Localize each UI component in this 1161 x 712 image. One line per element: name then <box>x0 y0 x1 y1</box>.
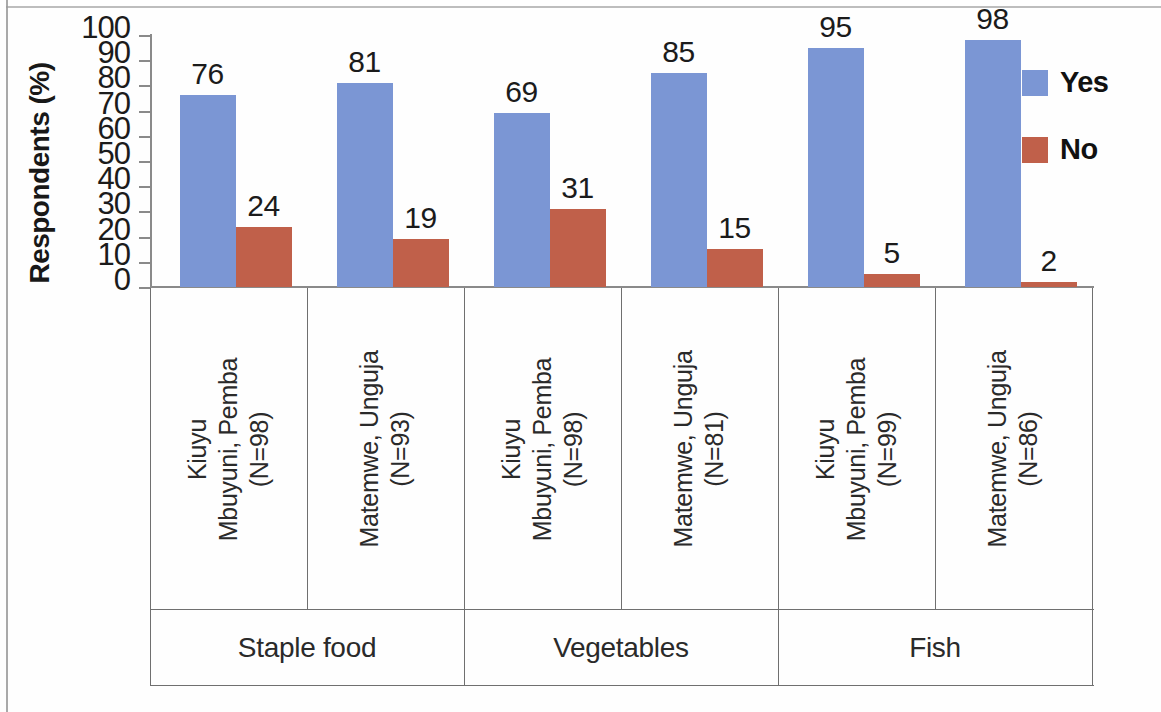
group-cell-divider <box>1092 610 1093 686</box>
bar-value-label-yes: 69 <box>482 75 562 109</box>
category-label-cell: Matemwe, Unguja(N=81) <box>621 288 778 610</box>
bar-yes[interactable] <box>337 83 393 287</box>
bar-no[interactable] <box>1021 282 1077 287</box>
group-label-cell: Fish <box>778 610 1092 686</box>
bar-pair: 8515 <box>622 35 779 287</box>
bar-value-label-no: 5 <box>852 236 932 270</box>
bar-no[interactable] <box>707 249 763 287</box>
legend-swatch-no-icon <box>1022 137 1048 163</box>
scan-edge-left <box>6 0 8 712</box>
category-label-row: KiuyuMbuyuni, Pemba(N=98)Matemwe, Unguja… <box>150 288 1094 610</box>
bar-value-label-no: 19 <box>381 201 461 235</box>
bar-value-label-no: 2 <box>1009 244 1089 278</box>
category-label-cell: Matemwe, Unguja(N=86) <box>935 288 1092 610</box>
bar-pair: 7624 <box>151 35 308 287</box>
bar-value-label-no: 24 <box>224 189 304 223</box>
y-tick-mark <box>139 136 151 138</box>
bar-value-label-no: 15 <box>695 211 775 245</box>
group-cell-divider <box>150 610 151 686</box>
y-tick-mark <box>139 60 151 62</box>
category-label-cell: Matemwe, Unguja(N=93) <box>307 288 464 610</box>
legend-item-yes[interactable]: Yes <box>1022 66 1152 99</box>
group-cell-divider <box>778 610 779 686</box>
y-tick-mark <box>139 262 151 264</box>
bar-no[interactable] <box>550 209 606 287</box>
category-label: Matemwe, Unguja(N=93) <box>355 351 417 548</box>
category-cell-divider <box>1092 288 1093 610</box>
category-label: Matemwe, Unguja(N=86) <box>983 351 1045 548</box>
bar-no[interactable] <box>393 239 449 287</box>
group-cell-divider <box>464 610 465 686</box>
bar-value-label-yes: 98 <box>953 2 1033 36</box>
group-label-cell: Staple food <box>150 610 464 686</box>
y-tick-mark <box>139 161 151 163</box>
bar-no[interactable] <box>236 227 292 287</box>
y-axis-tick-labels: 1009080706050403020100 <box>46 18 130 303</box>
category-cell-divider <box>150 288 151 610</box>
y-tick-label: 0 <box>114 264 130 295</box>
y-tick-mark <box>139 186 151 188</box>
bar-pair: 955 <box>779 35 936 287</box>
category-cell-divider <box>464 288 465 610</box>
legend-item-no[interactable]: No <box>1022 133 1152 166</box>
bar-pair: 8119 <box>308 35 465 287</box>
y-tick-mark <box>139 237 151 239</box>
y-tick-mark <box>139 85 151 87</box>
chart-legend: Yes No <box>1022 66 1152 200</box>
plot-area: 7624811969318515955982 <box>151 35 1093 287</box>
category-cell-divider <box>778 288 779 610</box>
y-tick-mark <box>139 35 151 37</box>
legend-label-yes: Yes <box>1060 66 1109 99</box>
category-label-cell: KiuyuMbuyuni, Pemba(N=98) <box>150 288 307 610</box>
category-label: KiuyuMbuyuni, Pemba(N=99) <box>810 357 903 540</box>
bar-value-label-yes: 81 <box>325 45 405 79</box>
y-tick-mark <box>139 111 151 113</box>
y-tick-mark <box>139 211 151 213</box>
scanned-figure-page: Respondents (%) 1009080706050403020100 7… <box>0 0 1161 712</box>
category-cell-divider <box>307 288 308 610</box>
bar-value-label-no: 31 <box>538 171 618 205</box>
category-axis-table: KiuyuMbuyuni, Pemba(N=98)Matemwe, Unguja… <box>150 288 1094 686</box>
legend-swatch-yes-icon <box>1022 70 1048 96</box>
category-label: KiuyuMbuyuni, Pemba(N=98) <box>182 357 275 540</box>
category-label: KiuyuMbuyuni, Pemba(N=98) <box>496 357 589 540</box>
bar-yes[interactable] <box>651 73 707 287</box>
category-label-cell: KiuyuMbuyuni, Pemba(N=99) <box>778 288 935 610</box>
group-label-cell: Vegetables <box>464 610 778 686</box>
category-cell-divider <box>935 288 936 610</box>
category-cell-divider <box>621 288 622 610</box>
bar-value-label-yes: 76 <box>168 57 248 91</box>
bar-pair: 6931 <box>465 35 622 287</box>
category-label: Matemwe, Unguja(N=81) <box>669 351 731 548</box>
category-label-cell: KiuyuMbuyuni, Pemba(N=98) <box>464 288 621 610</box>
legend-label-no: No <box>1060 133 1098 166</box>
table-bottom-border <box>150 685 1094 686</box>
bar-value-label-yes: 95 <box>796 10 876 44</box>
bar-value-label-yes: 85 <box>639 35 719 69</box>
group-label-row: Staple foodVegetablesFish <box>150 610 1094 686</box>
bar-no[interactable] <box>864 274 920 287</box>
